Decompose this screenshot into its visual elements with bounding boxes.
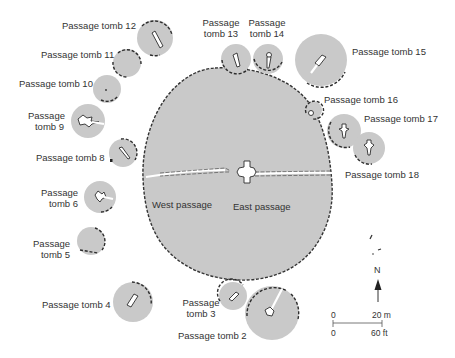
tomb-5-label: Passage tomb 5: [30, 238, 70, 260]
main-mound: [143, 68, 332, 280]
tomb-13-label-line2: tomb 13: [200, 28, 242, 39]
tomb-3-label-line2: tomb 3: [180, 308, 222, 319]
tomb-8-label: Passage tomb 8: [36, 152, 105, 163]
west-passage-label: West passage: [152, 199, 212, 210]
tomb-9-label-line1: Passage: [28, 110, 64, 121]
tomb-11: [113, 49, 141, 77]
tomb-14: [253, 44, 283, 74]
tomb-5-label-line1: Passage: [30, 238, 70, 249]
tomb-16-label: Passage tomb 16: [324, 94, 398, 105]
tomb-3-label: Passage tomb 3: [180, 297, 222, 319]
tomb-13-label: Passage tomb 13: [200, 17, 242, 39]
tomb-6: [84, 181, 116, 213]
tomb-15-label: Passage tomb 15: [352, 46, 426, 57]
scale-metric-max: 20 m: [372, 310, 391, 320]
tomb-12: [137, 20, 173, 56]
north-label: N: [374, 265, 381, 275]
tomb-5-label-line2: tomb 5: [30, 249, 70, 260]
tomb-14-label-line1: Passage: [246, 17, 288, 28]
tomb-16: [304, 101, 324, 119]
tomb-9-label: Passage tomb 9: [28, 110, 64, 132]
tomb-3-label-line1: Passage: [180, 297, 222, 308]
scale-imperial-max: 60 ft: [371, 328, 388, 338]
tomb-2-label: Passage tomb 2: [178, 330, 247, 341]
tomb-13: [221, 44, 251, 74]
tomb-9-label-line2: tomb 9: [28, 121, 64, 132]
tomb-17-label: Passage tomb 17: [364, 113, 438, 124]
tomb-13-label-line1: Passage: [200, 17, 242, 28]
tomb-12-label: Passage tomb 12: [62, 20, 136, 31]
tomb-15: [295, 34, 347, 87]
tomb-6-label: Passage tomb 6: [36, 187, 78, 209]
tomb-14-label-line2: tomb 14: [246, 28, 288, 39]
tomb-18: [353, 132, 385, 164]
tomb-4-label: Passage tomb 4: [42, 299, 111, 310]
tomb-6-label-line1: Passage: [36, 187, 78, 198]
scale-bar: [333, 320, 382, 327]
tomb-14-label: Passage tomb 14: [246, 17, 288, 39]
tomb-9: [71, 104, 105, 138]
tomb-11-label: Passage tomb 11: [41, 49, 114, 60]
scale-imperial-zero: 0: [331, 328, 336, 338]
tomb-6-label-line2: tomb 6: [36, 198, 78, 209]
tomb-4: [113, 282, 153, 322]
tomb-8: [109, 139, 137, 167]
tomb-2: [245, 286, 299, 340]
east-passage-label: East passage: [233, 201, 291, 212]
tomb-18-label: Passage tomb 18: [345, 169, 419, 180]
tomb-10: [93, 75, 121, 103]
tomb-5: [77, 227, 105, 255]
north-arrow-icon: [375, 279, 382, 302]
scale-metric-zero: 0: [331, 310, 336, 320]
stray-stones: [370, 235, 381, 255]
tomb-10-label: Passage tomb 10: [19, 78, 93, 89]
